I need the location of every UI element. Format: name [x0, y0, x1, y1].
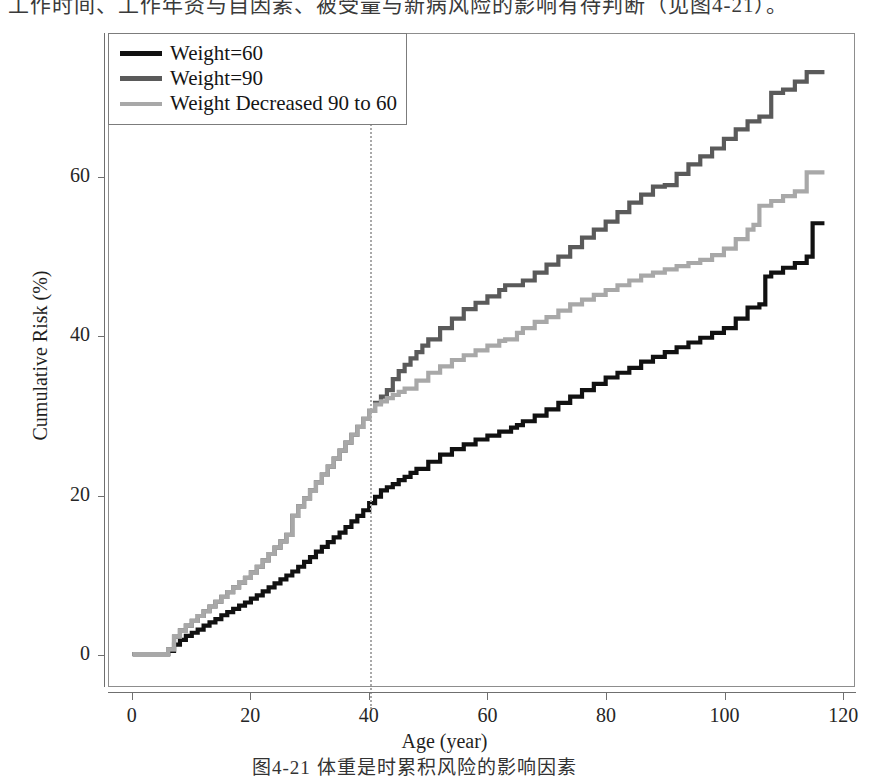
series-line-2: [133, 72, 825, 654]
curves-svg: [109, 34, 854, 686]
x-tick-label-100: 100: [697, 704, 753, 727]
y-tick-0: [98, 655, 105, 656]
x-tick-80: [606, 693, 607, 700]
x-tick-label-40: 40: [341, 704, 397, 727]
x-tick-label-20: 20: [222, 704, 278, 727]
figure-container: 0204060020406080100120 Cumulative Risk (…: [0, 14, 889, 734]
y-tick-label-0: 0: [44, 642, 90, 665]
figure-caption: 图4-21 体重是时累积风险的影响因素: [252, 752, 577, 779]
legend-item-label: Weight Decreased 90 to 60: [170, 93, 397, 114]
legend-line-swatch-icon: [120, 76, 162, 81]
legend-item-label: Weight=60: [170, 43, 263, 64]
x-tick-label-0: 0: [104, 704, 160, 727]
x-tick-label-60: 60: [459, 704, 515, 727]
legend-line-swatch-icon: [120, 102, 162, 106]
legend-item-2: Weight=90: [120, 66, 397, 91]
legend-item-1: Weight=60: [120, 41, 397, 66]
y-tick-20: [98, 496, 105, 497]
x-tick-0: [132, 693, 133, 700]
series-line-3: [133, 172, 825, 654]
plot-area: [108, 33, 855, 687]
x-axis-line: [108, 692, 856, 693]
x-tick-120: [843, 693, 844, 700]
legend-item-label: Weight=90: [170, 68, 263, 89]
series-line-1: [133, 223, 825, 654]
y-axis-line: [104, 33, 105, 687]
x-tick-20: [250, 693, 251, 700]
y-tick-40: [98, 336, 105, 337]
x-tick-60: [487, 693, 488, 700]
legend-item-3: Weight Decreased 90 to 60: [120, 91, 397, 116]
x-tick-40: [369, 693, 370, 700]
x-axis-title: Age (year): [0, 730, 889, 753]
x-tick-100: [725, 693, 726, 700]
legend-line-swatch-icon: [120, 51, 162, 56]
reference-vline-age40: [370, 53, 372, 709]
x-tick-label-80: 80: [578, 704, 634, 727]
y-tick-label-20: 20: [44, 483, 90, 506]
x-tick-label-120: 120: [815, 704, 871, 727]
legend: Weight=60Weight=90Weight Decreased 90 to…: [108, 33, 407, 125]
y-tick-label-60: 60: [44, 164, 90, 187]
y-tick-60: [98, 177, 105, 178]
y-axis-title: Cumulative Risk (%): [29, 246, 52, 466]
